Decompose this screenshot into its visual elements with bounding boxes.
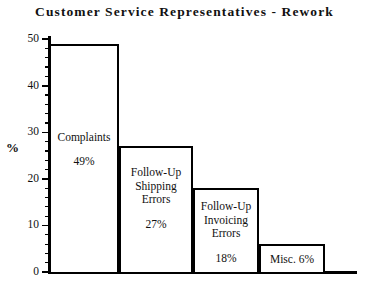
y-axis-title: % [6, 140, 19, 156]
y-tick-label-30: 30 [0, 126, 39, 138]
bar-complaints-label: Complaints [51, 131, 117, 145]
y-tick-label-40: 40 [0, 80, 39, 92]
bar-misc-content: Misc. 6% [261, 253, 323, 267]
bar-follow-up-shipping-errors[interactable]: Follow-Up Shipping Errors 27% [119, 146, 193, 272]
bar-follow-up-invoicing-errors[interactable]: Follow-Up Invoicing Errors 18% [193, 188, 259, 272]
bar-follow-up-invoicing-errors-label: Follow-Up Invoicing Errors [195, 200, 257, 241]
bar-complaints-value: 49% [51, 155, 117, 169]
bar-follow-up-invoicing-errors-content: Follow-Up Invoicing Errors 18% [195, 200, 257, 265]
bar-misc-value: 6% [299, 253, 314, 265]
bar-misc[interactable]: Misc. 6% [259, 244, 325, 272]
bar-complaints[interactable]: Complaints 49% [49, 44, 119, 272]
y-tick-label-0: 0 [0, 266, 39, 278]
bar-misc-label: Misc. [270, 253, 299, 265]
bar-complaints-content: Complaints 49% [51, 131, 117, 169]
bar-follow-up-shipping-errors-value: 27% [121, 218, 191, 232]
bar-follow-up-shipping-errors-label: Follow-Up Shipping Errors [121, 166, 191, 207]
bar-follow-up-invoicing-errors-value: 18% [195, 252, 257, 266]
y-tick-label-10: 10 [0, 219, 39, 231]
y-tick-label-20: 20 [0, 173, 39, 185]
y-tick-major-50 [42, 38, 51, 40]
pareto-chart: Customer Service Representatives - Rewor… [0, 0, 369, 290]
plot-area: % 50 40 30 20 10 0 [0, 0, 369, 290]
y-tick-label-50: 50 [0, 33, 39, 45]
bar-follow-up-shipping-errors-content: Follow-Up Shipping Errors 27% [121, 166, 191, 231]
